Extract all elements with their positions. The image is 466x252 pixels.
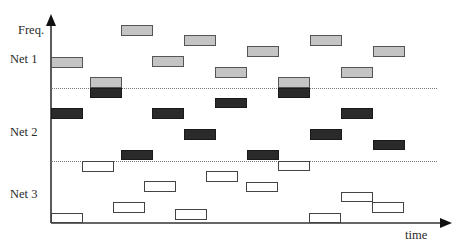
net3-hop-block (113, 202, 145, 213)
net3-hop-block (206, 171, 238, 182)
x-axis-arrow-icon (440, 218, 452, 228)
net3-hop-block (341, 192, 373, 202)
net2-hop-block (215, 98, 247, 108)
net1-hop-block (278, 77, 310, 88)
net2-hop-block (310, 129, 342, 140)
net2-hop-block (373, 140, 405, 150)
net-label-3: Net 3 (10, 187, 37, 202)
net1-hop-block (373, 46, 405, 57)
net1-hop-block (152, 56, 184, 67)
net1-hop-block (184, 35, 216, 46)
net2-hop-block (341, 108, 373, 119)
y-axis-arrow-icon (46, 14, 56, 26)
net3-hop-block (51, 213, 83, 223)
net3-hop-block (278, 161, 310, 171)
net2-hop-block (51, 108, 83, 119)
net1-hop-block (215, 67, 247, 78)
x-axis-label: time (405, 228, 427, 243)
net1-hop-block (310, 35, 342, 46)
net3-hop-block (372, 202, 404, 213)
net2-hop-block (184, 129, 216, 140)
net2-hop-block (247, 150, 279, 160)
net1-hop-block (90, 77, 122, 88)
net-label-1: Net 1 (10, 52, 37, 67)
frequency-hopping-diagram: Freq. Net 1 Net 2 Net 3 time (0, 0, 466, 252)
net3-hop-block (309, 213, 341, 223)
net1-hop-block (51, 57, 83, 68)
net1-hop-block (121, 25, 153, 36)
net1-hop-block (341, 67, 373, 78)
net3-hop-block (246, 182, 278, 192)
net-label-2: Net 2 (10, 125, 37, 140)
net1-hop-block (247, 46, 279, 57)
net3-hop-block (175, 209, 207, 220)
net3-hop-block (144, 181, 176, 192)
net3-hop-block (82, 161, 114, 172)
net2-hop-block (278, 88, 310, 98)
net2-hop-block (90, 88, 122, 98)
y-axis-label: Freq. (18, 23, 44, 38)
net2-hop-block (121, 150, 153, 160)
net2-hop-block (152, 108, 184, 119)
